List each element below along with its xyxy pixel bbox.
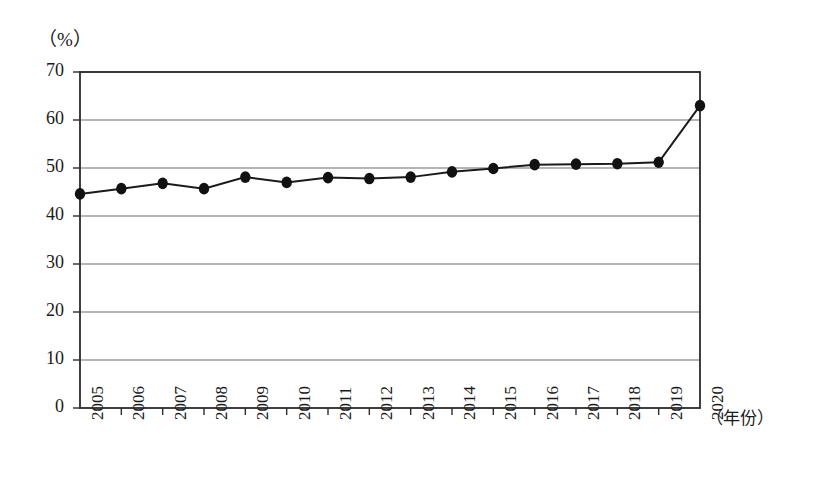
y-tick-label: 40 xyxy=(30,204,64,225)
x-tick-label: 2016 xyxy=(543,386,563,420)
data-point-marker xyxy=(240,171,250,183)
y-tick-label: 30 xyxy=(30,252,64,273)
x-tick-label: 2010 xyxy=(295,386,315,420)
y-tick-label: 10 xyxy=(30,348,64,369)
line-chart: （%） （年份） 010203040506070 200520062007200… xyxy=(0,0,819,485)
data-point-marker xyxy=(157,178,167,190)
data-point-marker xyxy=(116,183,126,195)
data-point-marker xyxy=(323,172,333,184)
x-tick-label: 2015 xyxy=(501,386,521,420)
data-point-marker xyxy=(695,100,705,112)
x-tick-label: 2011 xyxy=(336,387,356,420)
x-tick-label: 2007 xyxy=(171,386,191,420)
y-tick-label: 70 xyxy=(30,60,64,81)
y-tick-label: 20 xyxy=(30,300,64,321)
x-tick-label: 2014 xyxy=(460,386,480,420)
plot-border xyxy=(80,72,700,408)
x-tick-label: 2013 xyxy=(419,386,439,420)
data-point-marker xyxy=(612,158,622,170)
gridlines-group xyxy=(80,72,700,360)
x-tick-label: 2018 xyxy=(625,386,645,420)
data-series-line xyxy=(80,106,700,194)
y-tick-marks-group xyxy=(73,72,80,408)
data-point-marker xyxy=(75,188,85,200)
data-point-marker xyxy=(281,177,291,189)
x-tick-label: 2020 xyxy=(708,386,728,420)
data-point-marker xyxy=(488,163,498,175)
data-point-marker xyxy=(529,159,539,171)
x-tick-label: 2005 xyxy=(88,386,108,420)
data-point-marker xyxy=(653,156,663,168)
x-tick-label: 2009 xyxy=(253,386,273,420)
y-tick-label: 50 xyxy=(30,156,64,177)
data-point-marker xyxy=(199,183,209,195)
x-tick-label: 2008 xyxy=(212,386,232,420)
x-tick-label: 2019 xyxy=(667,386,687,420)
plot-area xyxy=(0,0,819,485)
plot-frame xyxy=(80,72,700,408)
data-point-marker xyxy=(447,166,457,178)
x-tick-label: 2006 xyxy=(129,386,149,420)
y-tick-label: 0 xyxy=(30,396,64,417)
x-tick-label: 2012 xyxy=(377,386,397,420)
data-point-marker xyxy=(364,173,374,185)
data-point-marker xyxy=(405,171,415,183)
data-point-marker xyxy=(571,158,581,170)
y-tick-label: 60 xyxy=(30,108,64,129)
x-tick-label: 2017 xyxy=(584,386,604,420)
